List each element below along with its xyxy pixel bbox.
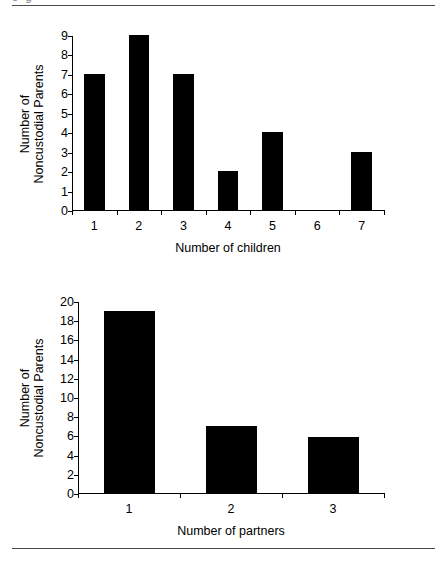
x-tick-mark bbox=[384, 210, 385, 215]
y-tick-mark bbox=[68, 133, 73, 134]
y-tick-label: 16 bbox=[60, 334, 74, 347]
chart1-x-axis-line bbox=[72, 210, 384, 211]
y-tick-mark bbox=[68, 172, 73, 173]
x-tick-label: 2 bbox=[135, 220, 142, 233]
x-tick-mark bbox=[117, 210, 118, 215]
y-tick-mark bbox=[74, 475, 79, 476]
x-tick-mark bbox=[250, 210, 251, 215]
bar bbox=[262, 132, 283, 210]
chart1-x-axis-title: Number of children bbox=[72, 241, 384, 255]
y-tick-label: 14 bbox=[60, 353, 74, 366]
chart1-y-axis-line bbox=[72, 36, 73, 211]
chart1-plot-area bbox=[72, 36, 384, 211]
y-tick-label: 5 bbox=[61, 108, 68, 121]
chart2-x-axis-line bbox=[78, 493, 384, 494]
x-tick-label: 1 bbox=[91, 220, 98, 233]
x-tick-label: 3 bbox=[180, 220, 187, 233]
x-tick-label: 3 bbox=[330, 503, 337, 516]
x-tick-mark bbox=[339, 210, 340, 215]
y-tick-label: 8 bbox=[61, 49, 68, 62]
y-tick-mark bbox=[74, 340, 79, 341]
y-tick-label: 0 bbox=[67, 488, 74, 501]
y-tick-mark bbox=[68, 114, 73, 115]
x-tick-mark bbox=[78, 493, 79, 498]
figure-page: o g Number of Noncustodial Parents 01234… bbox=[0, 0, 447, 562]
chart-number-of-partners: Number of Noncustodial Parents 024681012… bbox=[0, 288, 447, 546]
bar bbox=[104, 311, 155, 493]
y-tick-mark bbox=[74, 360, 79, 361]
x-tick-label: 7 bbox=[358, 220, 365, 233]
chart2-plot-area bbox=[78, 302, 384, 494]
y-tick-label: 10 bbox=[60, 392, 74, 405]
y-tick-label: 4 bbox=[67, 449, 74, 462]
x-tick-label: 6 bbox=[314, 220, 321, 233]
chart-number-of-children: Number of Noncustodial Parents 012345678… bbox=[0, 14, 447, 262]
x-tick-mark bbox=[295, 210, 296, 215]
y-tick-mark bbox=[68, 94, 73, 95]
clipped-caption-fragment: o g bbox=[12, 0, 435, 3]
bar bbox=[84, 74, 105, 210]
y-tick-label: 2 bbox=[61, 166, 68, 179]
y-tick-mark bbox=[68, 36, 73, 37]
chart1-y-tick-labels: 0123456789 bbox=[44, 36, 68, 211]
y-tick-mark bbox=[74, 302, 79, 303]
y-tick-mark bbox=[74, 436, 79, 437]
y-tick-mark bbox=[74, 398, 79, 399]
y-tick-label: 1 bbox=[61, 185, 68, 198]
y-tick-mark bbox=[68, 192, 73, 193]
y-tick-mark bbox=[74, 417, 79, 418]
figure-top-rule bbox=[12, 5, 435, 6]
y-tick-label: 2 bbox=[67, 469, 74, 482]
figure-bottom-rule bbox=[12, 548, 435, 549]
y-tick-label: 6 bbox=[67, 430, 74, 443]
x-tick-mark bbox=[72, 210, 73, 215]
x-tick-mark bbox=[161, 210, 162, 215]
x-tick-label: 1 bbox=[126, 503, 133, 516]
y-tick-label: 3 bbox=[61, 146, 68, 159]
x-tick-mark bbox=[180, 493, 181, 498]
x-tick-label: 4 bbox=[225, 220, 232, 233]
bar bbox=[218, 171, 239, 210]
y-tick-mark bbox=[74, 321, 79, 322]
y-tick-label: 8 bbox=[67, 411, 74, 424]
y-tick-label: 7 bbox=[61, 69, 68, 82]
bar bbox=[206, 426, 257, 493]
y-tick-mark bbox=[68, 55, 73, 56]
chart1-y-axis-title: Number of Noncustodial Parents bbox=[18, 36, 46, 211]
y-tick-mark bbox=[68, 153, 73, 154]
chart2-x-axis-title: Number of partners bbox=[78, 524, 384, 538]
bar bbox=[129, 35, 150, 210]
y-tick-mark bbox=[68, 75, 73, 76]
bar bbox=[173, 74, 194, 210]
y-tick-label: 0 bbox=[61, 205, 68, 218]
bar bbox=[351, 152, 372, 210]
y-tick-mark bbox=[74, 379, 79, 380]
y-tick-label: 9 bbox=[61, 30, 68, 43]
x-tick-label: 2 bbox=[228, 503, 235, 516]
y-tick-label: 18 bbox=[60, 315, 74, 328]
x-tick-label: 5 bbox=[269, 220, 276, 233]
y-tick-label: 20 bbox=[60, 296, 74, 309]
chart2-y-axis-title: Number of Noncustodial Parents bbox=[18, 302, 46, 494]
y-tick-label: 4 bbox=[61, 127, 68, 140]
x-tick-mark bbox=[384, 493, 385, 498]
chart2-y-tick-labels: 02468101214161820 bbox=[50, 302, 74, 494]
y-tick-label: 12 bbox=[60, 373, 74, 386]
y-tick-mark bbox=[74, 456, 79, 457]
x-tick-mark bbox=[206, 210, 207, 215]
bar bbox=[308, 437, 359, 493]
x-tick-mark bbox=[282, 493, 283, 498]
y-tick-label: 6 bbox=[61, 88, 68, 101]
